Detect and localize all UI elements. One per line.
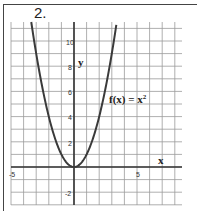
- function-label-exponent: 2: [143, 93, 147, 101]
- y-tick-8: 8: [68, 64, 72, 71]
- grid-lines: [11, 22, 182, 205]
- axes: [11, 22, 182, 205]
- y-tick-4: 4: [68, 114, 72, 121]
- y-tick-10: 10: [66, 39, 74, 46]
- x-axis-label: x: [158, 154, 164, 166]
- x-tick-5: 5: [136, 171, 140, 178]
- y-tick-6: 6: [68, 89, 72, 96]
- y-tick-neg2: -2: [65, 190, 71, 197]
- parabola-graph: 10 8 6 4 2 -2 -5 5 y x f(x) = x2: [0, 0, 197, 211]
- x-tick-neg5: -5: [9, 171, 15, 178]
- function-label-base: f(x) = x: [109, 93, 143, 106]
- function-label: f(x) = x2: [109, 93, 147, 106]
- y-axis-label: y: [78, 56, 84, 68]
- y-tick-2: 2: [68, 140, 72, 147]
